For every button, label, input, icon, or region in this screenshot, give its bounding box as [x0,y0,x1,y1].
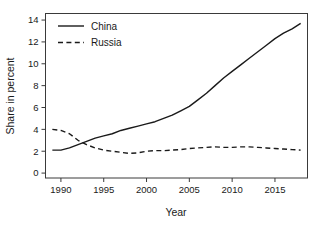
y-tick-label: 10 [28,58,39,69]
y-tick-label: 2 [33,146,38,157]
x-tick-label: 1995 [93,184,114,195]
y-tick-label: 4 [33,124,38,135]
legend-label-china: China [91,21,118,32]
x-tick-label: 2015 [264,184,285,195]
y-tick-label: 6 [33,102,38,113]
x-tick-label: 2005 [179,184,200,195]
legend-label-russia: Russia [91,37,122,48]
y-axis-title: Share in percent [4,57,16,134]
y-tick-label: 14 [28,14,39,25]
x-tick-label: 2010 [222,184,243,195]
y-tick-label: 8 [33,80,38,91]
chart-background [0,0,328,230]
y-tick-label: 12 [28,36,39,47]
y-tick-label: 0 [33,167,38,178]
x-tick-label: 2000 [136,184,157,195]
x-axis-title: Year [165,206,187,218]
x-tick-label: 1990 [50,184,71,195]
share-in-percent-line-chart: 02468101214 199019952000200520102015 Chi… [0,0,328,230]
